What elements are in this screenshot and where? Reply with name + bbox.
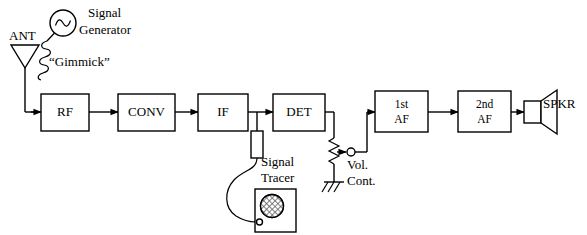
- speaker-magnet-rect: [524, 101, 541, 123]
- volume-control-group: Vol. Cont.: [322, 112, 376, 192]
- antenna-group: ANT: [9, 28, 41, 112]
- signal-generator-label-line1: Signal: [88, 5, 122, 20]
- signal-tracer-label-line1: Signal: [261, 154, 295, 169]
- rf-block: RF: [41, 94, 89, 131]
- af2-block-label-line2: AF: [477, 113, 492, 125]
- speaker-group: SPKR: [524, 90, 576, 134]
- signal-tracer-label-line2: Tracer: [261, 170, 295, 185]
- tracer-input-terminal: [257, 219, 263, 225]
- gimmick-label: “Gimmick”: [49, 54, 110, 69]
- potentiometer-icon: [329, 138, 339, 164]
- speaker-label: SPKR: [543, 96, 576, 111]
- antenna-triangle-icon: [11, 45, 39, 68]
- tracer-meter-face-hatch2: [261, 195, 284, 218]
- conv-block: CONV: [118, 94, 175, 131]
- generator-lead-wire: [47, 33, 55, 41]
- wiper-terminal: [347, 148, 355, 156]
- if-block: IF: [198, 94, 248, 131]
- gimmick-group: “Gimmick”: [38, 41, 110, 80]
- af1-block: 1st AF: [375, 91, 428, 132]
- antenna-label: ANT: [9, 28, 36, 43]
- signal-generator-group: Signal Generator: [47, 5, 132, 41]
- conv-block-label: CONV: [128, 104, 165, 119]
- signal-generator-label-line2: Generator: [79, 22, 132, 37]
- volume-control-label-line1: Vol.: [347, 157, 368, 172]
- signal-tracer-group: Signal Tracer: [255, 154, 296, 232]
- probe-lead-wire: [227, 158, 257, 222]
- af1-block-label-line1: 1st: [395, 98, 409, 110]
- af1-block-label-line2: AF: [394, 113, 409, 125]
- rf-block-label: RF: [57, 104, 73, 119]
- diagram-canvas: ANT Signal Generator “Gimmick” RF CONV: [0, 0, 587, 235]
- af2-block: 2nd AF: [458, 91, 511, 132]
- block-diagram-figure: ANT Signal Generator “Gimmick” RF CONV: [0, 0, 587, 235]
- if-block-label: IF: [217, 104, 229, 119]
- det-block: DET: [273, 94, 325, 131]
- af2-block-label-line1: 2nd: [476, 98, 494, 110]
- det-block-label: DET: [286, 104, 311, 119]
- chassis-ground-icon: [322, 182, 344, 192]
- volume-control-label-line2: Cont.: [347, 173, 376, 188]
